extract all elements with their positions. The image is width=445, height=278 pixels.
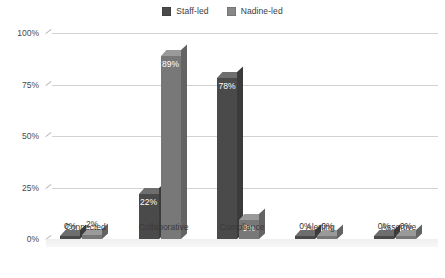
bar-side bbox=[337, 225, 343, 239]
legend-label-nadine-led: Nadine-led bbox=[241, 6, 283, 16]
bar-face bbox=[60, 236, 80, 239]
bar-face bbox=[374, 236, 394, 239]
x-axis-label-compliance: Compliance bbox=[220, 222, 265, 232]
bar-face bbox=[396, 236, 416, 239]
y-axis-tick-label: 25% bbox=[22, 183, 39, 193]
bar-assertive-staff-led[interactable]: 0% bbox=[374, 236, 394, 239]
bar-side bbox=[416, 225, 422, 239]
gridline-50 bbox=[52, 136, 438, 137]
bar-collaborative-staff-led[interactable]: 22% bbox=[139, 194, 159, 239]
gridline-75 bbox=[52, 85, 438, 86]
x-axis-label-assertive: Assertive bbox=[381, 222, 416, 232]
bar-side bbox=[181, 44, 187, 239]
legend-label-staff-led: Staff-led bbox=[176, 6, 208, 16]
legend-item-staff-led[interactable]: Staff-led bbox=[162, 6, 208, 16]
chart-floor bbox=[46, 239, 438, 247]
bar-connected-staff-led[interactable]: 0% bbox=[60, 236, 80, 239]
y-axis-tick-label: 0% bbox=[27, 234, 39, 244]
bar-body bbox=[217, 78, 237, 239]
bar-alerting-nadine-led[interactable]: 0% bbox=[317, 236, 337, 239]
y-axis-tick-label: 75% bbox=[22, 80, 39, 90]
bar-side bbox=[237, 67, 243, 239]
grid-tick-100 bbox=[45, 29, 51, 34]
bar-body bbox=[82, 235, 102, 239]
bar-compliance-staff-led[interactable]: 78% bbox=[217, 78, 237, 239]
bar-body bbox=[317, 236, 337, 239]
bar-face bbox=[217, 78, 237, 239]
bar-face bbox=[82, 235, 102, 239]
legend-swatch-nadine-led bbox=[227, 7, 236, 16]
bar-collaborative-nadine-led[interactable]: 89% bbox=[161, 56, 181, 239]
y-axis-tick-label: 50% bbox=[22, 131, 39, 141]
bar-face bbox=[161, 56, 181, 239]
bar-face bbox=[317, 236, 337, 239]
bar-value-label: 78% bbox=[218, 82, 235, 91]
grid-tick-25 bbox=[45, 183, 51, 188]
legend-item-nadine-led[interactable]: Nadine-led bbox=[227, 6, 283, 16]
chart-container: Staff-led Nadine-led 0%25%50%75%100% 0%2… bbox=[0, 0, 445, 278]
grid-tick-50 bbox=[45, 132, 51, 137]
x-axis-label-alerting: Alerting bbox=[306, 222, 335, 232]
y-axis-tick-label: 100% bbox=[17, 28, 39, 38]
x-axis-label-connected: Connected bbox=[65, 222, 106, 232]
bar-value-label: 89% bbox=[162, 60, 179, 69]
bar-value-label: 22% bbox=[140, 198, 157, 207]
bar-face bbox=[295, 236, 315, 239]
gridline-100 bbox=[52, 33, 438, 34]
bar-body bbox=[396, 236, 416, 239]
bar-body bbox=[295, 236, 315, 239]
bar-connected-nadine-led[interactable]: 2% bbox=[82, 235, 102, 239]
grid-tick-75 bbox=[45, 80, 51, 85]
legend-swatch-staff-led bbox=[162, 7, 171, 16]
x-axis-label-collaborative: Collaborative bbox=[139, 222, 189, 232]
chart-legend: Staff-led Nadine-led bbox=[0, 6, 445, 16]
bar-body bbox=[161, 56, 181, 239]
gridline-25 bbox=[52, 188, 438, 189]
bar-body bbox=[60, 236, 80, 239]
bar-body bbox=[374, 236, 394, 239]
plot-area: 0%25%50%75%100% 0%2%22%89%78%9%0%0%0%0% bbox=[46, 33, 438, 239]
bar-assertive-nadine-led[interactable]: 0% bbox=[396, 236, 416, 239]
bar-alerting-staff-led[interactable]: 0% bbox=[295, 236, 315, 239]
